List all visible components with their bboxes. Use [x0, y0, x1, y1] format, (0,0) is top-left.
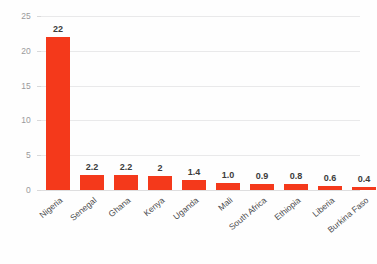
bar[interactable] [46, 37, 70, 190]
bar-group[interactable]: 0.6 [313, 16, 347, 190]
x-axis-category-text: Kenya [142, 195, 167, 218]
x-axis-category-text: Liberia [310, 195, 336, 219]
x-axis-category-text: Nigeria [37, 195, 64, 220]
bar-group[interactable]: 1.4 [177, 16, 211, 190]
bar-group[interactable]: 0.4 [347, 16, 377, 190]
plot-area: 25 20 15 10 5 0 222.22.221.41.00.90.80.6… [41, 16, 360, 190]
bar-value-label: 1.4 [177, 167, 211, 177]
x-axis-label-slot[interactable]: Senegal [75, 192, 109, 262]
bar-group[interactable]: 0.9 [245, 16, 279, 190]
y-tick-mark-0 [37, 190, 41, 191]
x-axis-label-slot[interactable]: Uganda [177, 192, 211, 262]
bar-value-label: 22 [41, 24, 75, 34]
bar-chart: 25 20 15 10 5 0 222.22.221.41.00.90.80.6… [0, 0, 377, 264]
y-axis-label-20: 20 [5, 46, 31, 56]
y-axis-label-0: 0 [5, 185, 31, 195]
bar-group[interactable]: 2.2 [109, 16, 143, 190]
bar-group[interactable]: 0.8 [279, 16, 313, 190]
bars-layer: 222.22.221.41.00.90.80.60.4 [41, 16, 360, 190]
bar-value-label: 2.2 [109, 162, 143, 172]
x-axis-label-slot[interactable]: South Africa [245, 192, 279, 262]
bar-value-label: 0.9 [245, 171, 279, 181]
x-axis-label-slot[interactable]: Ethiopia [279, 192, 313, 262]
x-axis-label-slot[interactable]: Burkina Faso [347, 192, 377, 262]
x-axis-label-slot[interactable]: Mali [211, 192, 245, 262]
y-axis-label-10: 10 [5, 115, 31, 125]
bar-value-label: 2.2 [75, 162, 109, 172]
x-axis-category-text: Mali [216, 195, 234, 213]
y-axis-label-15: 15 [5, 81, 31, 91]
bar-group[interactable]: 2.2 [75, 16, 109, 190]
bar-group[interactable]: 22 [41, 16, 75, 190]
bar-group[interactable]: 2 [143, 16, 177, 190]
y-axis-label-25: 25 [5, 11, 31, 21]
x-axis-label-slot[interactable]: Ghana [109, 192, 143, 262]
x-axis-category-text: Ghana [106, 195, 132, 219]
x-axis-label-slot[interactable]: Nigeria [41, 192, 75, 262]
bar-group[interactable]: 1.0 [211, 16, 245, 190]
bar-value-label: 2 [143, 163, 177, 173]
x-axis-label-slot[interactable]: Kenya [143, 192, 177, 262]
y-axis-label-5: 5 [5, 150, 31, 160]
x-axis-labels: NigeriaSenegalGhanaKenyaUgandaMaliSouth … [41, 192, 360, 262]
